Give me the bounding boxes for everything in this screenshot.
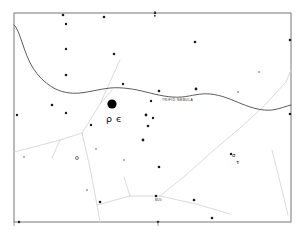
star-point-faint [86, 189, 88, 191]
star-point [289, 39, 292, 42]
star-point [65, 112, 67, 114]
star-point [122, 83, 124, 85]
star-point [113, 53, 116, 56]
star-point [147, 125, 150, 128]
star-point [155, 195, 158, 198]
label-greek-epsilon: є [116, 113, 121, 124]
label-trifid-nebula: TRIFID NEBULA [162, 98, 194, 102]
star-point [62, 14, 65, 17]
star-point [51, 104, 54, 107]
star-chart-canvas: TRIFID NEBULAρєM20στ [0, 0, 303, 235]
label-greek-sigma: σ [232, 152, 236, 158]
star-point [65, 48, 67, 50]
star-point-hollow [76, 157, 79, 160]
star-point-faint [123, 159, 125, 161]
star-point [99, 201, 102, 204]
star-point [194, 41, 197, 44]
star-point [145, 114, 148, 117]
star-point [158, 166, 161, 169]
star-point [142, 139, 145, 142]
star-point [193, 199, 196, 202]
star-point [158, 90, 161, 93]
star-point-faint [237, 91, 239, 93]
star-point-faint [95, 148, 97, 150]
star-point [65, 23, 67, 25]
star-point [103, 16, 106, 19]
nebula-marker-group [107, 99, 116, 108]
star-point [90, 124, 92, 126]
star-point-faint [258, 71, 260, 73]
star-point [150, 100, 152, 102]
label-greek-rho: ρ [106, 113, 112, 124]
top-border-tick-b [154, 15, 156, 17]
trifid-nebula-blob [107, 99, 116, 108]
star-point [211, 217, 214, 220]
star-point [152, 117, 154, 119]
star-point [16, 114, 18, 116]
top-border-tick-a [154, 12, 156, 14]
star-point-faint [23, 156, 25, 158]
star-point [65, 74, 68, 77]
star-chart-container: TRIFID NEBULAρєM20στ [0, 0, 303, 235]
star-point [18, 221, 20, 223]
star-point [195, 88, 198, 91]
star-point [289, 113, 292, 116]
label-messier-object: M20 [155, 198, 162, 202]
